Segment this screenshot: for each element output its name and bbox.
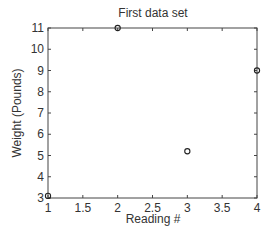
x-tick-label: 3: [184, 201, 191, 215]
y-tick-label: 9: [37, 64, 44, 78]
y-tick-label: 5: [37, 149, 44, 163]
y-tick-label: 7: [37, 106, 44, 120]
y-tick-label: 11: [32, 21, 45, 35]
y-tick-label: 10: [31, 42, 45, 56]
y-tick-label: 6: [37, 127, 44, 141]
y-tick-label: 4: [37, 170, 44, 184]
x-tick-label: 2: [114, 201, 121, 215]
x-tick-label: 1.5: [74, 201, 91, 215]
y-tick-label: 3: [37, 191, 44, 205]
plot-area: 11.522.533.5434567891011: [0, 0, 273, 236]
x-tick-label: 4: [254, 201, 261, 215]
x-tick-label: 1: [45, 201, 52, 215]
axes-box: [48, 28, 257, 198]
data-point-marker: [185, 149, 190, 154]
x-tick-label: 3.5: [214, 201, 231, 215]
x-tick-label: 2.5: [144, 201, 161, 215]
y-tick-label: 8: [37, 85, 44, 99]
